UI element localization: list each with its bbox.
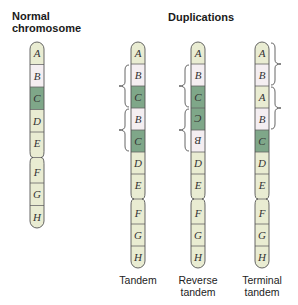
segment-label: F (258, 207, 266, 219)
duplication-bracket (271, 87, 281, 129)
segment-label: H (257, 251, 267, 263)
caption-reverse-tandem-line2: tandem (180, 286, 215, 298)
segment-label: H (133, 251, 143, 263)
duplication-bracket (179, 65, 189, 107)
diagram-canvas: Normal chromosome Duplications ABCDEFGHA… (0, 0, 298, 305)
chromosome-normal: ABCDEFGH (29, 42, 45, 228)
segment-label: F (194, 207, 202, 219)
caption-terminal-tandem-line1: Terminal (242, 274, 282, 286)
segment-label: A (194, 47, 202, 59)
caption-terminal-tandem-line2: tandem (244, 286, 279, 298)
segment-label: D (193, 157, 202, 169)
segment-label: E (194, 179, 202, 191)
segment-label: F (33, 166, 41, 178)
segment-label: D (257, 157, 266, 169)
chromosome-terminal-tandem: ABABCDEFGHTerminaltandem (242, 42, 282, 298)
segment-label: A (258, 91, 266, 103)
duplication-bracket (119, 65, 129, 107)
normal-title-line2: chromosome (12, 22, 81, 34)
duplication-bracket (179, 109, 189, 151)
segment-label: E (33, 137, 41, 149)
segment-label: C (134, 91, 142, 103)
segment-label: G (258, 229, 266, 241)
segment-label: B (34, 70, 41, 82)
segment-label: G (134, 229, 142, 241)
segment-label: D (133, 157, 142, 169)
segment-label: B (259, 113, 266, 125)
duplication-bracket (271, 43, 281, 85)
segment-label: G (33, 188, 41, 200)
chromosome-tandem: ABCBCDEFGHTandem (119, 42, 157, 286)
segment-label: C (33, 92, 41, 104)
segment-label: C (258, 135, 266, 147)
segment-label: G (194, 229, 202, 241)
segment-label: H (32, 211, 42, 223)
segment-label: B (194, 135, 201, 147)
segment-label: C (194, 91, 202, 103)
segment-label: B (135, 113, 142, 125)
segment-label: D (32, 115, 41, 127)
segment-label: H (193, 251, 203, 263)
segment-label: A (33, 47, 41, 59)
segment-label: A (258, 47, 266, 59)
segment-label: C (134, 135, 142, 147)
segment-label: F (134, 207, 142, 219)
segment-label: C (194, 113, 202, 125)
segment-label: E (258, 179, 266, 191)
caption-reverse-tandem-line1: Reverse (178, 274, 217, 286)
segment-label: A (134, 47, 142, 59)
normal-title-line1: Normal (12, 10, 50, 22)
duplications-title: Duplications (168, 11, 234, 23)
segment-label: B (195, 69, 202, 81)
chromosome-reverse-tandem: ABCCBDEFGHReversetandem (178, 42, 217, 298)
segment-label: B (135, 69, 142, 81)
chromosome-duplication-diagram: Normal chromosome Duplications ABCDEFGHA… (0, 0, 298, 305)
segment-label: B (259, 69, 266, 81)
chromosome-group: ABCDEFGHABCBCDEFGHTandemABCCBDEFGHRevers… (29, 42, 282, 298)
duplication-bracket (119, 109, 129, 151)
segment-label: E (134, 179, 142, 191)
caption-tandem-line1: Tandem (119, 274, 157, 286)
